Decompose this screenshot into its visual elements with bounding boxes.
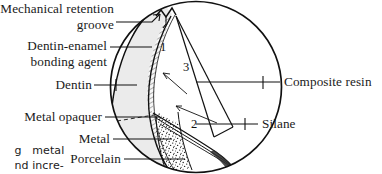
body-fragment-line-2-text: nd incre- (14, 159, 63, 172)
callout-2: 2 (191, 117, 197, 132)
label-silane: Silane (262, 116, 296, 132)
callout-3-text: 3 (183, 60, 189, 74)
label-mechanical-retention-groove: Mechanical retention groove (0, 1, 114, 32)
callout-2-text: 2 (191, 117, 197, 131)
callout-1: 1 (160, 40, 166, 55)
callout-3: 3 (183, 60, 189, 75)
callout-1-text: 1 (160, 40, 166, 54)
label-dentin-enamel-bonding-agent-line1: Dentin-enamel (0, 38, 107, 54)
label-metal-opaquer-text: Metal opaquer (0, 109, 102, 125)
label-metal-opaquer: Metal opaquer (0, 109, 102, 125)
body-fragment-line-2: nd incre- (0, 143, 64, 174)
label-dentin-enamel-bonding-agent: Dentin-enamel bonding agent (0, 38, 107, 69)
label-dentin-enamel-bonding-agent-line2: bonding agent (0, 54, 107, 70)
label-dentin: Dentin (0, 77, 92, 93)
figure-canvas: Mechanical retention groove Dentin-ename… (0, 0, 382, 174)
label-silane-text: Silane (262, 116, 296, 131)
label-dentin-text: Dentin (0, 77, 92, 93)
inset-contents (111, 2, 243, 174)
label-composite-resin-text: Composite resin (284, 74, 372, 89)
label-mechanical-retention-groove-line2: groove (0, 17, 114, 33)
label-mechanical-retention-groove-line1: Mechanical retention (0, 1, 114, 17)
label-composite-resin: Composite resin (284, 74, 372, 90)
